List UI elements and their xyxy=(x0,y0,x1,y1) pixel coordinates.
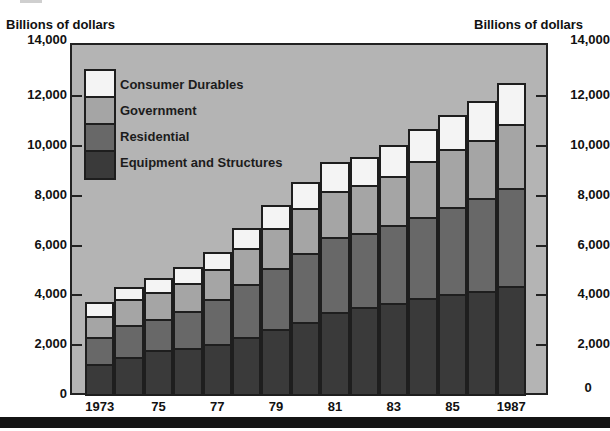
legend-label: Consumer Durables xyxy=(120,77,244,92)
y-tick-mark-left xyxy=(72,344,82,346)
x-tick-label: 85 xyxy=(433,399,473,414)
y-tick-mark-right xyxy=(536,344,546,346)
bar-segment-residential xyxy=(497,188,526,287)
y-tick-label-left: 10,000 xyxy=(27,138,67,152)
bar-segment-government xyxy=(232,248,261,286)
bar-1985 xyxy=(438,45,467,393)
x-tick-label: 79 xyxy=(256,399,296,414)
bar-segment-residential xyxy=(261,268,290,331)
legend-swatch-equipment-and-structures xyxy=(84,150,116,180)
bar-1977 xyxy=(203,45,232,393)
bar-segment-government xyxy=(144,292,173,321)
bar-1986 xyxy=(467,45,496,393)
bar-segment-consumer-durables xyxy=(261,205,290,231)
x-tick-label: 81 xyxy=(315,399,355,414)
bar-segment-government xyxy=(85,316,114,339)
bar-segment-government xyxy=(203,269,232,301)
bar-segment-residential xyxy=(173,311,202,350)
bar-segment-equipment-and-structures xyxy=(261,329,290,396)
x-tick-label: 1987 xyxy=(491,399,531,414)
bar-segment-government xyxy=(497,124,526,191)
x-tick-label: 83 xyxy=(374,399,414,414)
bar-segment-equipment-and-structures xyxy=(203,344,232,396)
bar-segment-consumer-durables xyxy=(85,302,114,318)
y-tick-mark-right xyxy=(536,294,546,296)
bar-segment-consumer-durables xyxy=(497,83,526,126)
bar-1987 xyxy=(497,45,526,393)
bar-segment-consumer-durables xyxy=(291,182,320,210)
bar-segment-residential xyxy=(320,237,349,314)
bar-segment-residential xyxy=(203,299,232,346)
y-tick-label-left: 0 xyxy=(60,387,67,401)
y-tick-mark-left xyxy=(72,145,82,147)
bar-1974 xyxy=(114,45,143,393)
y-tick-label-right: 8,000 xyxy=(566,188,610,202)
bar-1978 xyxy=(232,45,261,393)
bar-segment-consumer-durables xyxy=(320,162,349,193)
bar-segment-residential xyxy=(379,225,408,305)
bar-segment-consumer-durables xyxy=(438,115,467,151)
bar-1980 xyxy=(291,45,320,393)
bar-segment-residential xyxy=(85,337,114,366)
bar-segment-consumer-durables xyxy=(173,267,202,285)
bar-segment-equipment-and-structures xyxy=(114,357,143,396)
bar-segment-equipment-and-structures xyxy=(350,307,379,396)
bar-1976 xyxy=(173,45,202,393)
y-tick-mark-right xyxy=(536,195,546,197)
bar-1975 xyxy=(144,45,173,393)
bar-1979 xyxy=(261,45,290,393)
bar-segment-government xyxy=(173,283,202,312)
bar-1981 xyxy=(320,45,349,393)
bar-segment-equipment-and-structures xyxy=(85,364,114,396)
x-tick-label: 75 xyxy=(139,399,179,414)
y-tick-mark-left xyxy=(72,245,82,247)
bar-1984 xyxy=(408,45,437,393)
bar-segment-equipment-and-structures xyxy=(467,291,496,396)
right-axis-title: Billions of dollars xyxy=(474,17,583,32)
y-tick-label-right: 6,000 xyxy=(566,238,610,252)
bar-segment-residential xyxy=(438,207,467,296)
y-tick-mark-right xyxy=(536,145,546,147)
legend-label: Residential xyxy=(120,129,189,144)
legend-swatch-government xyxy=(84,96,116,125)
bar-segment-residential xyxy=(114,325,143,358)
y-tick-label-right: 12,000 xyxy=(566,88,610,102)
x-tick-label: 77 xyxy=(197,399,237,414)
bar-segment-consumer-durables xyxy=(203,252,232,271)
y-tick-label-left: 6,000 xyxy=(34,238,67,252)
bar-segment-consumer-durables xyxy=(350,157,379,186)
y-tick-mark-right xyxy=(536,95,546,97)
legend-label: Government xyxy=(120,103,197,118)
bar-segment-government xyxy=(320,191,349,239)
y-tick-label-right: 10,000 xyxy=(566,138,610,152)
legend-swatch-consumer-durables xyxy=(84,69,116,98)
bottom-rule xyxy=(0,417,610,428)
bar-segment-equipment-and-structures xyxy=(144,350,173,396)
bar-segment-residential xyxy=(350,233,379,309)
bar-segment-consumer-durables xyxy=(232,228,261,250)
left-axis-title: Billions of dollars xyxy=(6,17,115,32)
bar-segment-residential xyxy=(144,319,173,352)
y-tick-mark-right xyxy=(536,245,546,247)
bar-segment-consumer-durables xyxy=(114,287,143,301)
bar-segment-equipment-and-structures xyxy=(408,298,437,396)
y-tick-label-left: 14,000 xyxy=(27,33,67,47)
bar-segment-government xyxy=(379,176,408,227)
y-tick-label-left: 8,000 xyxy=(34,188,67,202)
y-tick-label-left: 12,000 xyxy=(27,88,67,102)
bar-segment-consumer-durables xyxy=(408,129,437,163)
bar-segment-equipment-and-structures xyxy=(497,286,526,396)
bar-segment-equipment-and-structures xyxy=(438,294,467,396)
bar-segment-residential xyxy=(291,253,320,324)
bar-segment-consumer-durables xyxy=(144,278,173,294)
y-tick-label-left: 4,000 xyxy=(34,287,67,301)
bar-segment-residential xyxy=(408,217,437,300)
bar-segment-residential xyxy=(467,198,496,292)
y-tick-label-right: 14,000 xyxy=(566,33,610,47)
bar-segment-consumer-durables xyxy=(467,101,496,142)
bar-segment-government xyxy=(408,161,437,219)
bar-segment-government xyxy=(114,299,143,327)
bar-segment-equipment-and-structures xyxy=(291,322,320,396)
y-tick-mark-left xyxy=(72,95,82,97)
y-tick-mark-left xyxy=(72,195,82,197)
